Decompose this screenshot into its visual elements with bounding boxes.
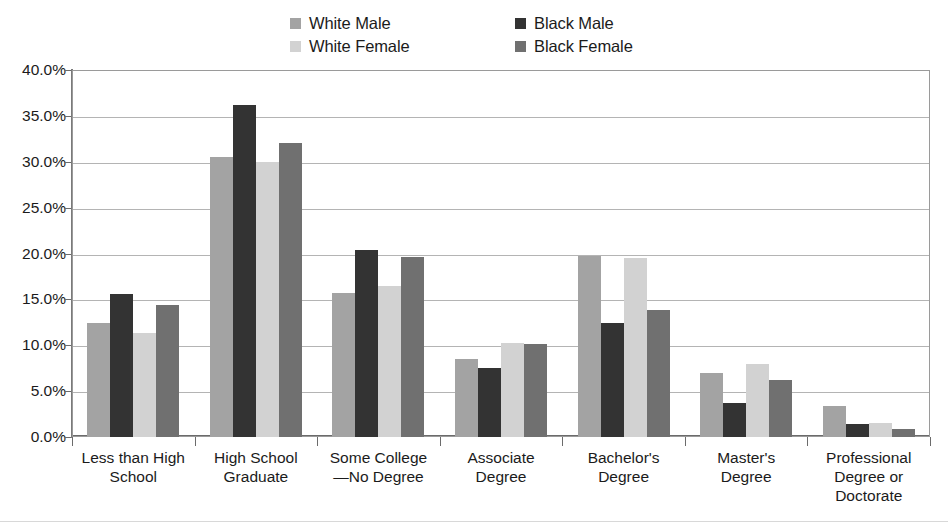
y-axis-tick-label: 20.0% [4, 245, 66, 263]
x-axis-label-line: Doctorate [809, 486, 928, 505]
y-axis-tick-label: 25.0% [4, 199, 66, 217]
x-axis-tick [317, 437, 318, 446]
y-axis-tick-label: 10.0% [4, 336, 66, 354]
x-axis-tick [807, 437, 808, 446]
bar[interactable] [746, 364, 769, 437]
x-axis-label-line: Degree or [809, 467, 928, 486]
bar[interactable] [256, 162, 279, 437]
x-axis-tick [685, 437, 686, 446]
legend-swatch-icon [515, 41, 526, 52]
bar[interactable] [355, 250, 378, 437]
legend-swatch-icon [290, 41, 301, 52]
x-axis-tick [930, 437, 931, 446]
x-axis-tick [440, 437, 441, 446]
legend-item-white-female: White Female [290, 37, 485, 56]
y-axis-tick-label: 15.0% [4, 290, 66, 308]
x-axis-label-line: Degree [564, 467, 683, 486]
legend-swatch-icon [290, 18, 301, 29]
bar[interactable] [233, 105, 256, 437]
bar-groups [72, 70, 930, 437]
x-axis-label-line: —No Degree [319, 467, 438, 486]
y-axis-tick-label: 30.0% [4, 153, 66, 171]
bar[interactable] [478, 368, 501, 437]
bar[interactable] [769, 380, 792, 437]
x-axis-label-line: Degree [442, 467, 561, 486]
x-axis-label-line: Less than High [74, 448, 193, 467]
x-axis-labels: Less than HighSchoolHigh SchoolGraduateS… [72, 448, 930, 505]
x-axis-tick [562, 437, 563, 446]
x-axis-category-label: Master'sDegree [685, 448, 808, 505]
bar[interactable] [156, 305, 179, 437]
bar[interactable] [279, 143, 302, 437]
bar[interactable] [524, 344, 547, 437]
x-axis-label-line: Bachelor's [564, 448, 683, 467]
bar[interactable] [723, 403, 746, 437]
legend-item-black-female: Black Female [515, 37, 710, 56]
x-axis-label-line: Professional [809, 448, 928, 467]
bar[interactable] [110, 294, 133, 437]
legend-item-black-male: Black Male [515, 14, 710, 33]
x-axis-tick [195, 437, 196, 446]
x-axis-category-label: Bachelor'sDegree [562, 448, 685, 505]
bar-group [317, 70, 440, 437]
bar[interactable] [332, 293, 355, 437]
x-axis-category-label: Some College—No Degree [317, 448, 440, 505]
bar[interactable] [892, 429, 915, 437]
x-axis-label-line: Some College [319, 448, 438, 467]
bar[interactable] [210, 157, 233, 437]
bar-group [807, 70, 930, 437]
bar-group [195, 70, 318, 437]
bar-chart: White Male Black Male White Female Black… [0, 0, 948, 530]
x-axis-tick [72, 437, 73, 446]
x-axis-label-line: Graduate [197, 467, 316, 486]
bar[interactable] [823, 406, 846, 437]
bar[interactable] [624, 258, 647, 437]
x-axis-label-line: High School [197, 448, 316, 467]
bar[interactable] [501, 343, 524, 437]
bar[interactable] [700, 373, 723, 437]
legend-label: White Female [309, 37, 410, 56]
legend-swatch-icon [515, 18, 526, 29]
chart-legend: White Male Black Male White Female Black… [290, 12, 710, 58]
legend-item-white-male: White Male [290, 14, 485, 33]
y-axis-tick-label: 5.0% [4, 382, 66, 400]
bar[interactable] [647, 310, 670, 437]
footer-divider [0, 521, 948, 522]
bar[interactable] [578, 256, 601, 437]
bar[interactable] [378, 286, 401, 437]
bar[interactable] [869, 423, 892, 437]
y-axis-tick-label: 40.0% [4, 61, 66, 79]
bar-group [562, 70, 685, 437]
x-axis-category-label: AssociateDegree [440, 448, 563, 505]
x-axis-label-line: School [74, 467, 193, 486]
x-axis-label-line: Degree [687, 467, 806, 486]
bar[interactable] [133, 333, 156, 437]
legend-label: White Male [309, 14, 391, 33]
y-axis: 40.0%35.0%30.0%25.0%20.0%15.0%10.0%5.0%0… [0, 0, 66, 530]
bar[interactable] [87, 323, 110, 437]
bar-group [72, 70, 195, 437]
x-axis-category-label: ProfessionalDegree orDoctorate [807, 448, 930, 505]
legend-label: Black Male [534, 14, 614, 33]
bar[interactable] [846, 424, 869, 437]
bar[interactable] [401, 257, 424, 437]
x-axis-label-line: Associate [442, 448, 561, 467]
y-axis-tick-label: 0.0% [4, 428, 66, 446]
bar-group [440, 70, 563, 437]
bar[interactable] [455, 359, 478, 437]
bar[interactable] [601, 323, 624, 437]
bar-group [685, 70, 808, 437]
legend-label: Black Female [534, 37, 633, 56]
x-axis-category-label: High SchoolGraduate [195, 448, 318, 505]
x-axis-label-line: Master's [687, 448, 806, 467]
y-axis-tick-label: 35.0% [4, 107, 66, 125]
x-axis-category-label: Less than HighSchool [72, 448, 195, 505]
x-axis-ticks [72, 437, 930, 446]
